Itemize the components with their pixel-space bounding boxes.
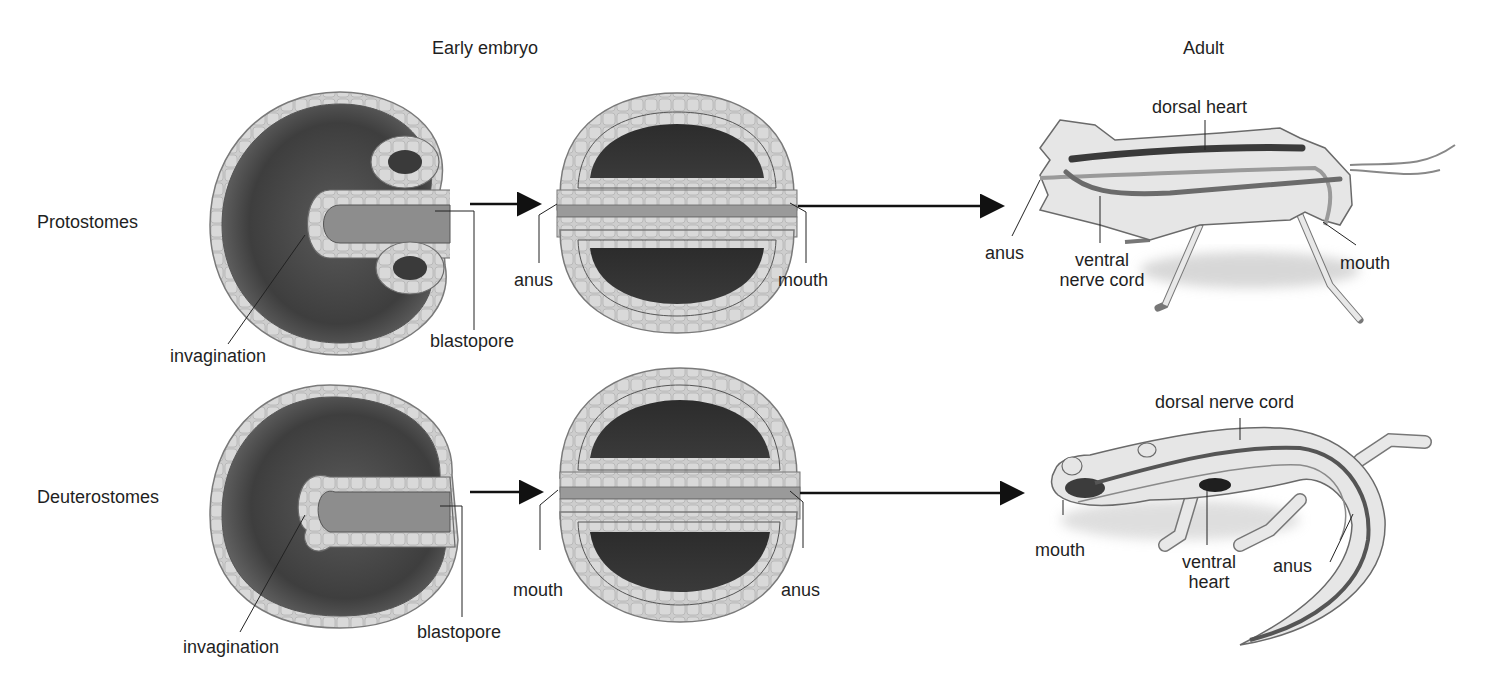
label-dorsal-nerve-cord: dorsal nerve cord — [1155, 392, 1294, 412]
deuterostome-gastrula — [210, 385, 458, 628]
label-ventral-heart: ventral heart — [1170, 552, 1248, 592]
label-anus-deut-embryo: anus — [781, 580, 820, 600]
label-blastopore-proto: blastopore — [430, 331, 514, 351]
deuterostome-coelom-embryo — [560, 368, 800, 622]
label-anus-grasshopper: anus — [985, 243, 1024, 263]
label-anus-salamander: anus — [1273, 556, 1312, 576]
label-mouth-deut-embryo: mouth — [513, 580, 563, 600]
label-mouth-salamander: mouth — [1035, 540, 1085, 560]
label-ventral-line1: ventral — [1182, 552, 1236, 572]
label-invagination-deut: invagination — [183, 637, 279, 657]
label-invagination-proto: invagination — [170, 346, 266, 366]
leader-anus-grasshopper — [1012, 180, 1040, 236]
label-mouth-proto-embryo: mouth — [778, 270, 828, 290]
label-heart-line2: heart — [1188, 572, 1229, 592]
label-nerve-cord-line2: nerve cord — [1059, 270, 1144, 290]
leader-anus-proto — [539, 204, 557, 263]
salamander-illustration — [1052, 428, 1425, 645]
label-ventral-line1: ventral — [1075, 250, 1129, 270]
label-anus-proto-embryo: anus — [514, 270, 553, 290]
protostome-gastrula — [210, 92, 450, 355]
label-mouth-grasshopper: mouth — [1340, 253, 1390, 273]
label-ventral-nerve-cord: ventral nerve cord — [1052, 250, 1152, 290]
protostome-coelom-embryo — [557, 93, 797, 333]
label-blastopore-deut: blastopore — [417, 622, 501, 642]
label-dorsal-heart: dorsal heart — [1152, 97, 1247, 117]
grasshopper-illustration — [1040, 120, 1455, 320]
leader-mouth-deut — [540, 490, 558, 550]
